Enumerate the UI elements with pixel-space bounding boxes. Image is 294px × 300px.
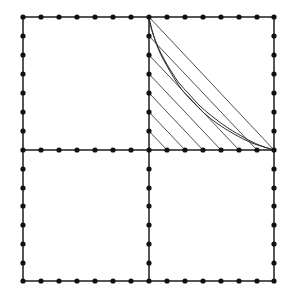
grid-node [146,52,151,57]
grid-node [110,278,115,283]
grid-node [271,128,276,133]
grid-node [56,278,61,283]
grid-node [254,14,259,19]
grid-node [271,185,276,190]
grid-node [271,109,276,114]
grid-node [20,71,25,76]
grid-node [271,52,276,57]
grid-node [20,109,25,114]
grid-node [92,147,97,152]
grid-node [128,147,133,152]
grid-node [56,147,61,152]
grid-node [20,222,25,227]
grid-node [271,222,276,227]
grid-node [218,14,223,19]
grid-node [271,14,276,19]
grid-node [20,128,25,133]
grid-node [74,147,79,152]
grid-node [218,278,223,283]
grid-node [146,260,151,265]
grid-node [20,14,25,19]
grid-node [164,278,169,283]
grid-node [164,14,169,19]
grid-node [271,90,276,95]
grid-node [271,241,276,246]
grid-node [74,14,79,19]
grid-node [38,147,43,152]
grid-node [20,278,25,283]
grid-node [271,260,276,265]
grid-node [74,278,79,283]
grid-node [182,278,187,283]
grid-node [146,241,151,246]
grid-node [182,147,187,152]
grid-node [92,14,97,19]
grid-node [271,71,276,76]
grid-node [146,90,151,95]
grid-node [146,128,151,133]
grid-node [92,278,97,283]
grid-node [271,278,276,283]
grid-node [146,71,151,76]
grid-node [56,14,61,19]
grid-node [200,14,205,19]
grid-node [20,241,25,246]
grid-node [271,147,276,152]
grid-node [200,147,205,152]
grid-node [271,166,276,171]
grid-node [271,33,276,38]
grid-node [218,147,223,152]
grid-node [146,203,151,208]
grid-node [128,278,133,283]
grid-node [146,185,151,190]
geometry-figure [0,0,294,300]
grid-node [128,14,133,19]
grid-node [200,278,205,283]
grid-node [20,203,25,208]
grid-node [146,14,151,19]
grid-node [182,14,187,19]
grid-node [20,90,25,95]
grid-node [236,147,241,152]
grid-node [146,278,151,283]
grid-node [20,185,25,190]
grid-node [236,278,241,283]
grid-node [20,147,25,152]
grid-node [236,14,241,19]
grid-node [110,147,115,152]
grid-node [164,147,169,152]
grid-node [20,260,25,265]
grid-node [38,278,43,283]
grid-node [146,166,151,171]
grid-node [110,14,115,19]
grid-node [20,166,25,171]
grid-node [254,147,259,152]
grid-node [146,147,151,152]
grid-node [20,33,25,38]
grid-node [38,14,43,19]
grid-node [254,278,259,283]
grid-node [146,33,151,38]
grid-node [271,203,276,208]
grid-node [146,222,151,227]
figure-root [0,0,294,300]
grid-node [20,52,25,57]
grid-node [146,109,151,114]
